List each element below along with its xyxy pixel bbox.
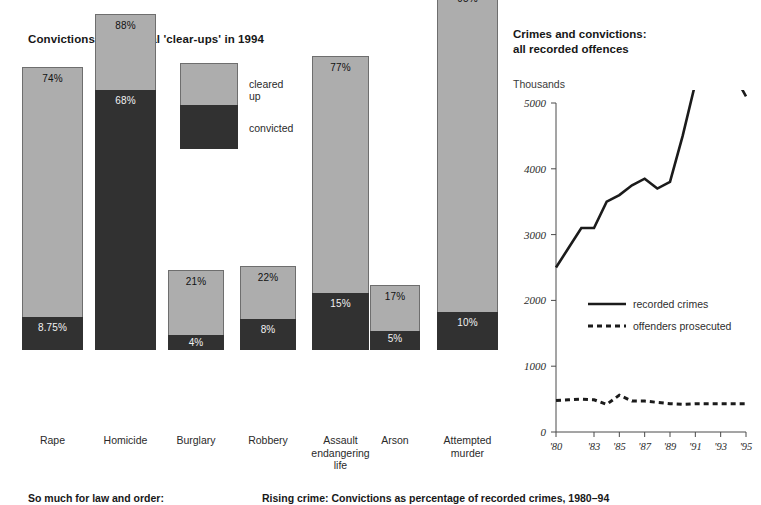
line-chart-title-line-1: all recorded offences: [513, 42, 753, 57]
y-tick-label: 4000: [524, 163, 547, 175]
bar-value-label-cleared-up: 88%: [96, 20, 155, 31]
line-chart-title-line-0: Crimes and convictions:: [513, 27, 753, 42]
bar-value-label-convicted: 5%: [371, 333, 419, 344]
legend-label-recorded-crimes: recorded crimes: [633, 298, 708, 310]
x-tick-label: '93: [714, 441, 727, 450]
line-chart-panel: Crimes and convictions:all recorded offe…: [510, 0, 761, 505]
footer-caption-right: Rising crime: Convictions as percentage …: [262, 492, 609, 504]
bar-segment-convicted: 4%: [168, 335, 224, 350]
bar-group-assault-endangering-life[interactable]: 77%15%: [312, 56, 369, 350]
bar-segment-cleared-up: 77%: [312, 56, 369, 293]
line-chart-legend: recorded crimes offenders prosecuted: [588, 298, 732, 332]
bar-group-robbery[interactable]: 22%8%: [240, 266, 296, 350]
bar-segment-cleared-up: 17%: [370, 285, 420, 331]
bar-chart-panel: Convictions and official 'clear-ups' in …: [0, 0, 510, 505]
bar-segment-cleared-up: 22%: [240, 266, 296, 319]
bar-segment-convicted: 10%: [437, 312, 498, 350]
bar-value-label-cleared-up: 95%: [438, 0, 497, 4]
bar-value-label-convicted: 15%: [313, 298, 368, 309]
y-tick-label: 5000: [524, 97, 547, 109]
line-chart-units-label: Thousands: [513, 78, 565, 90]
bar-value-label-cleared-up: 77%: [313, 62, 368, 73]
bar-category-label-robbery: Robbery: [230, 434, 306, 447]
series-offenders-prosecuted: [556, 395, 746, 404]
series-recorded-crimes: [556, 90, 746, 268]
bar-value-label-convicted: 4%: [169, 337, 223, 348]
bar-category-label-burglary: Burglary: [158, 434, 234, 447]
x-tick-label: '91: [689, 441, 702, 450]
y-tick-label: 2000: [524, 294, 547, 306]
bar-category-label-attempted-murder: Attemptedmurder: [427, 434, 508, 459]
bar-segment-convicted: 8%: [240, 319, 296, 350]
footer-caption-left: So much for law and order:: [28, 492, 164, 504]
bar-category-label-rape: Rape: [12, 434, 93, 447]
y-axis-ticks: 010002000300040005000: [523, 97, 556, 438]
x-tick-label: '85: [613, 441, 626, 450]
x-tick-label: '80: [550, 441, 563, 450]
bar-category-label-arson: Arson: [360, 434, 430, 447]
bar-value-label-convicted: 8%: [241, 324, 295, 335]
bar-group-homicide[interactable]: 88%68%: [95, 14, 156, 350]
bar-category-label-homicide: Homicide: [85, 434, 166, 447]
bar-value-label-cleared-up: 21%: [169, 276, 223, 287]
x-axis-ticks: '80'83'85'87'89'91'93'95: [550, 432, 753, 450]
bar-segment-cleared-up: 74%: [22, 67, 83, 316]
line-chart-svg: 010002000300040005000 '80'83'85'87'89'91…: [510, 90, 761, 450]
bar-group-burglary[interactable]: 21%4%: [168, 270, 224, 350]
bar-group-arson[interactable]: 17%5%: [370, 285, 420, 350]
bar-segment-convicted: 15%: [312, 293, 369, 350]
bar-segment-convicted: 5%: [370, 331, 420, 350]
bar-value-label-convicted: 68%: [96, 95, 155, 106]
bar-segment-convicted: 8.75%: [22, 317, 83, 350]
bar-value-label-cleared-up: 74%: [23, 73, 82, 84]
bar-segment-cleared-up: 95%: [437, 0, 498, 312]
x-tick-label: '87: [638, 441, 651, 450]
bar-plot-area: 74%8.75%Rape88%68%Homicide21%4%Burglary2…: [0, 0, 510, 430]
bar-value-label-cleared-up: 22%: [241, 272, 295, 283]
bar-group-rape[interactable]: 74%8.75%: [22, 67, 83, 350]
y-tick-label: 3000: [523, 229, 547, 241]
chart-page: Convictions and official 'clear-ups' in …: [0, 0, 761, 505]
bar-value-label-convicted: 8.75%: [23, 322, 82, 333]
x-tick-label: '83: [588, 441, 601, 450]
bar-value-label-cleared-up: 17%: [371, 291, 419, 302]
bar-segment-cleared-up: 88%: [95, 14, 156, 90]
x-tick-label: '89: [664, 441, 677, 450]
bar-value-label-convicted: 10%: [438, 317, 497, 328]
x-tick-label: '95: [740, 441, 753, 450]
bar-segment-convicted: 68%: [95, 90, 156, 350]
bar-segment-cleared-up: 21%: [168, 270, 224, 335]
y-tick-label: 0: [541, 426, 547, 438]
legend-label-offenders-prosecuted: offenders prosecuted: [633, 320, 732, 332]
bar-group-attempted-murder[interactable]: 95%10%: [437, 0, 498, 350]
y-tick-label: 1000: [524, 360, 547, 372]
line-chart-title: Crimes and convictions:all recorded offe…: [513, 27, 753, 56]
